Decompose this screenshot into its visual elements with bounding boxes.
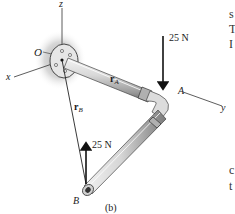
edge-text-fragment: s	[229, 8, 234, 20]
figure-caption: (b)	[105, 203, 117, 213]
force-b-label: 25 N	[92, 140, 112, 150]
point-b-label: B	[73, 196, 79, 206]
y-axis	[183, 92, 222, 106]
x-axis-label: x	[6, 72, 10, 82]
origin-label: O	[34, 47, 42, 57]
force-a-label: 25 N	[169, 33, 189, 43]
figure-drawing	[0, 0, 235, 214]
edge-text-fragment: c	[229, 164, 234, 176]
y-axis-label: y	[221, 103, 225, 113]
edge-text-fragment: I	[229, 38, 233, 50]
z-axis-label: z	[59, 0, 63, 9]
vector-rb-label: rB	[74, 102, 83, 115]
edge-text-fragment: T	[229, 23, 235, 35]
vector-ra-label: rA	[110, 74, 119, 87]
edge-text-fragment: t	[229, 180, 232, 192]
pipe-force-figure: z x y O A B rA rB 25 N 25 N (b) s T I c …	[0, 0, 235, 214]
point-a-label: A	[178, 86, 184, 96]
